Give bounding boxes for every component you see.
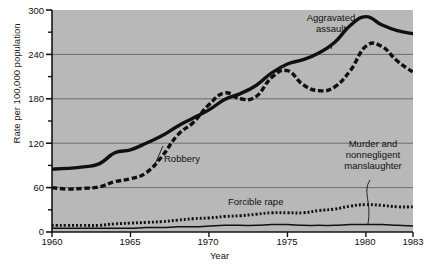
y-tick-label-180: 180 xyxy=(14,93,44,104)
annotation-murder-line2: nonnegligent xyxy=(346,149,400,160)
annotation-aggravated-assault: Aggravated assault xyxy=(288,12,374,34)
annotation-murder-line1: Murder and xyxy=(349,138,398,149)
annotation-aggravated-assault-line1: Aggravated xyxy=(307,12,356,23)
y-axis-title: Rate per 100,000 population xyxy=(11,24,22,144)
chart-figure: Rate per 100,000 population 300 240 180 … xyxy=(0,0,439,268)
x-tick-label-1960: 1960 xyxy=(32,236,72,247)
x-axis-title: Year xyxy=(0,250,439,261)
y-tick-label-60: 60 xyxy=(14,182,44,193)
chart-canvas xyxy=(0,0,439,268)
annotation-robbery: Robbery xyxy=(164,153,200,164)
x-tick-label-1975: 1975 xyxy=(267,236,307,247)
y-tick-label-240: 240 xyxy=(14,49,44,60)
y-tick-label-120: 120 xyxy=(14,138,44,149)
line-chart: Rate per 100,000 population 300 240 180 … xyxy=(0,0,439,268)
x-tick-label-1983: 1983 xyxy=(393,236,433,247)
x-tick-label-1965: 1965 xyxy=(110,236,150,247)
x-tick-label-1980: 1980 xyxy=(345,236,385,247)
annotation-murder-line3: manslaughter xyxy=(344,160,402,171)
annotation-murder-nonnegligent-manslaughter: Murder and nonnegligent manslaughter xyxy=(330,138,416,171)
annotation-aggravated-assault-line2: assault xyxy=(316,23,346,34)
x-tick-label-1970: 1970 xyxy=(188,236,228,247)
y-tick-label-300: 300 xyxy=(14,5,44,16)
annotation-forcible-rape: Forcible rape xyxy=(228,196,283,207)
